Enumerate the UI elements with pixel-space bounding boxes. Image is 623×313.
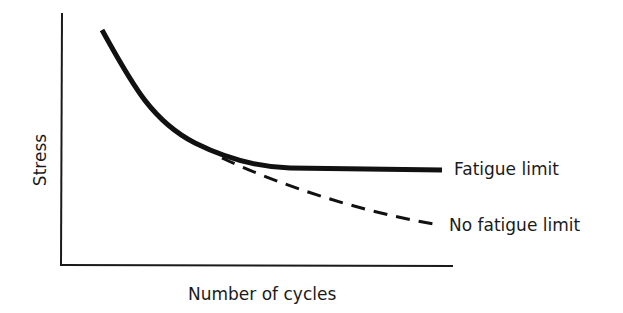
- x-axis: [60, 265, 453, 266]
- sn-curve-diagram: [0, 0, 623, 313]
- y-axis-label: Stress: [30, 130, 50, 190]
- x-axis-label: Number of cycles: [188, 284, 336, 304]
- fatigue-limit-label: Fatigue limit: [454, 159, 559, 179]
- fatigue-limit-curve: [102, 30, 442, 170]
- no-fatigue-limit-label: No fatigue limit: [449, 215, 580, 235]
- y-axis: [61, 13, 62, 266]
